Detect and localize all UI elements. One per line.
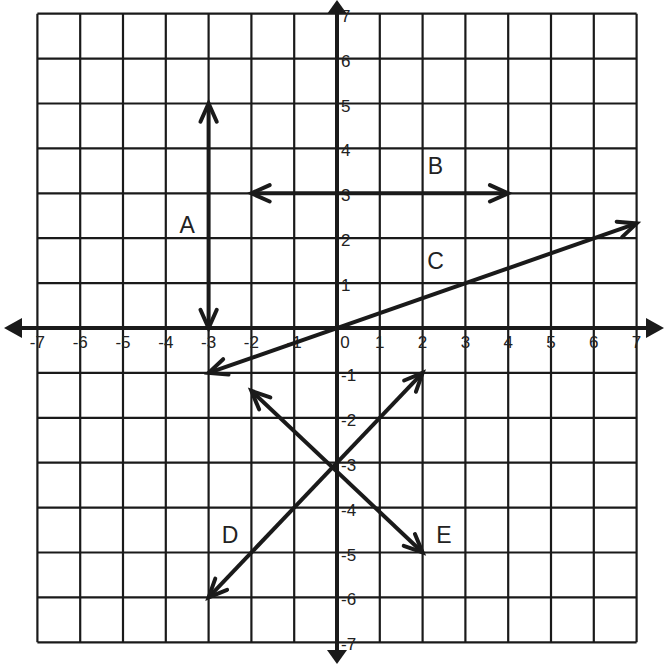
line-d [209, 373, 423, 598]
y-tick-label: -1 [341, 366, 356, 385]
x-tick-label: 5 [546, 333, 555, 352]
x-tick-label: 2 [418, 333, 427, 352]
line-label-c: C [427, 248, 444, 274]
y-tick-label: 3 [341, 186, 350, 205]
x-tick-label: -4 [158, 333, 173, 352]
x-tick-label: -7 [30, 333, 45, 352]
x-axis-left-arrow-icon [4, 318, 22, 338]
x-tick-label: 4 [503, 333, 512, 352]
x-tick-label: -6 [73, 333, 88, 352]
x-tick-label: 6 [589, 333, 598, 352]
x-tick-label: 1 [375, 333, 384, 352]
y-tick-label: -5 [341, 546, 356, 565]
x-tick-label: -2 [244, 333, 259, 352]
line-label-e: E [436, 522, 451, 548]
x-tick-label: 7 [632, 333, 641, 352]
y-tick-label: 1 [341, 276, 350, 295]
x-tick-label: 3 [461, 333, 470, 352]
y-tick-label: -6 [341, 590, 356, 609]
line-label-a: A [180, 212, 196, 238]
y-tick-label: 4 [341, 141, 350, 160]
x-tick-label: -5 [115, 333, 130, 352]
y-tick-label: 6 [341, 52, 350, 71]
x-tick-label: -3 [201, 333, 216, 352]
line-label-d: D [222, 522, 239, 548]
coordinate-plane: -7-6-5-4-3-2-1012345677654321-1-2-3-4-5-… [0, 0, 668, 665]
x-tick-label: 0 [340, 333, 349, 352]
y-tick-label: -4 [341, 501, 356, 520]
y-tick-label: -7 [341, 635, 356, 654]
y-tick-label: 7 [341, 7, 350, 26]
line-label-b: B [428, 153, 443, 179]
y-tick-label: -2 [341, 411, 356, 430]
x-axis-right-arrow-icon [646, 318, 664, 338]
y-tick-label: 5 [341, 97, 350, 116]
y-tick-label: 2 [341, 231, 350, 250]
